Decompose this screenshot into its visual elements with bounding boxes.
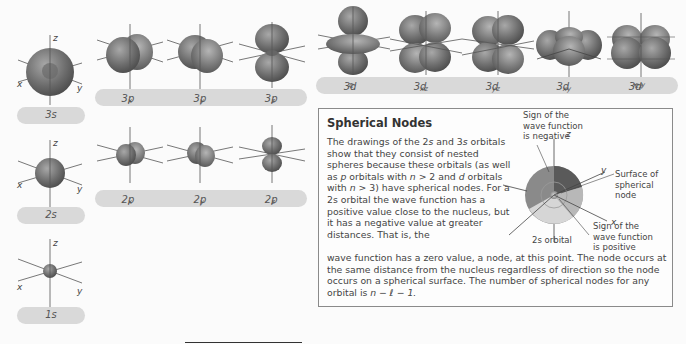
axis-y-label: y — [77, 286, 82, 296]
orbital-2pz-drawing — [237, 125, 307, 195]
diagram-caption: 2s orbital — [532, 235, 572, 246]
label-3py: 3py — [200, 91, 204, 105]
orbital-3dxz-drawing — [390, 5, 462, 75]
label-3pz: 3pz — [271, 91, 275, 105]
diagram-y-label: y — [601, 165, 606, 175]
box-title: Spherical Nodes — [327, 116, 432, 130]
orbital-3pz-drawing — [237, 22, 307, 92]
orbital-3dyz-drawing — [462, 5, 534, 75]
label-2px: 2px — [128, 192, 132, 206]
label-2s: 2s — [17, 207, 85, 224]
axis-z-label: z — [53, 138, 58, 148]
orbital-3dz2-drawing — [318, 5, 390, 75]
orbital-3dx2y2-drawing — [605, 5, 677, 75]
label-1s: 1s — [17, 307, 85, 324]
box-paragraph-1: The drawings of the 2s and 3s orbitals s… — [327, 136, 512, 240]
orbital-2px-drawing — [95, 125, 165, 195]
label-3dxz: 3dxz — [420, 79, 428, 93]
orbital-2s-drawing — [10, 135, 90, 215]
label-row-3d: 3dz2 3dxz 3dyz 3dxy 3dx2− y2 — [316, 77, 678, 94]
axis-y-label: y — [77, 83, 82, 93]
box-paragraph-2: wave function has a zero value, a node, … — [327, 252, 667, 298]
orbital-label: 1s — [45, 309, 57, 320]
annotation-negative: Sign of the wave function is negative — [523, 110, 583, 142]
orbital-label: 2s — [45, 209, 57, 220]
annotation-surface: Surface of spherical node — [615, 169, 665, 201]
axis-z-label: z — [53, 238, 58, 248]
spherical-nodes-sidebar: Spherical Nodes The drawings of the 2s a… — [318, 108, 673, 307]
label-3s: 3s — [17, 107, 85, 124]
axis-x-label: x — [17, 79, 22, 89]
axis-x-label: x — [17, 282, 22, 292]
orbital-3dxy-drawing — [533, 5, 605, 75]
label-3dx2y2: 3dx2− y2 — [635, 79, 643, 93]
label-3px: 3px — [128, 91, 132, 105]
orbital-1s-drawing — [10, 235, 90, 315]
label-2pz: 2pz — [271, 192, 275, 206]
orbital-3px-drawing — [95, 22, 165, 92]
orbital-3py-drawing — [165, 22, 235, 92]
annotation-positive: Sign of the wave function is positive — [593, 221, 653, 253]
orbital-3s-drawing — [10, 30, 90, 110]
axis-z-label: z — [53, 33, 58, 43]
label-row-3p: 3px 3py 3pz — [95, 89, 307, 106]
axis-x-label: x — [17, 180, 22, 190]
orbital-label: 3s — [45, 109, 57, 120]
label-3dxy: 3dxy — [563, 79, 571, 93]
axis-y-label: y — [77, 184, 82, 194]
label-2py: 2py — [200, 192, 204, 206]
label-row-2p: 2px 2py 2pz — [95, 190, 307, 207]
label-3dyz: 3dyz — [492, 79, 500, 93]
footnote-rule — [185, 342, 302, 343]
label-3dz2: 3dz2 — [350, 79, 354, 93]
orbital-2py-drawing — [165, 125, 235, 195]
